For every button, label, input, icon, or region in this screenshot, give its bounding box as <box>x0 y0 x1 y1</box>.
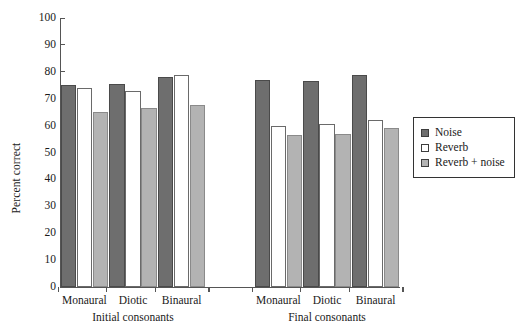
x-axis-tick <box>300 287 301 292</box>
y-axis-tick-label: 20 <box>14 227 56 239</box>
y-axis-tick-label: 40 <box>14 173 56 185</box>
legend-item-label: Noise <box>435 127 462 139</box>
y-axis-tick-label-text: 70 <box>16 93 56 105</box>
y-axis-tick-label-text: 20 <box>16 227 56 239</box>
bar-reverb-initial-consonants-diotic <box>125 91 141 287</box>
x-axis-category-label: Binaural <box>137 294 227 306</box>
y-axis-tick-label-text: 100 <box>16 12 56 24</box>
legend-item: Noise <box>421 125 505 140</box>
y-axis-tick-label-text: 40 <box>16 173 56 185</box>
legend-swatch-icon <box>421 159 429 167</box>
bar-reverbnoise-initial-consonants-monaural <box>93 112 109 287</box>
legend-item-label: Reverb <box>435 142 468 154</box>
bar-chart-figure: Percent correct 0102030405060708090100 M… <box>0 0 530 335</box>
bar-reverb-final-consonants-binaural <box>368 120 384 287</box>
bar-reverb-final-consonants-diotic <box>319 124 335 287</box>
x-axis-group-label: Final consonants <box>257 311 397 323</box>
bar-noise-initial-consonants-monaural <box>61 85 77 287</box>
y-axis-tick-label: 70 <box>14 93 56 105</box>
y-axis-tick-label: 80 <box>14 66 56 78</box>
x-axis-tick <box>349 287 350 292</box>
legend: NoiseReverbReverb + noise <box>413 117 515 178</box>
bar-reverbnoise-final-consonants-binaural <box>384 128 400 287</box>
x-axis-category-label: Binaural <box>331 294 421 306</box>
x-axis-tick <box>58 287 59 292</box>
y-axis-tick-label: 50 <box>14 147 56 159</box>
y-axis-tick-label-text: 90 <box>16 39 56 51</box>
bar-reverbnoise-initial-consonants-diotic <box>141 108 157 287</box>
x-axis-tick <box>106 287 107 292</box>
y-axis-tick-label: 100 <box>14 12 56 24</box>
bar-noise-final-consonants-diotic <box>303 81 319 287</box>
bar-reverb-initial-consonants-monaural <box>77 88 93 287</box>
x-axis-tick <box>155 287 156 292</box>
y-axis-tick-label: 0 <box>14 281 56 293</box>
bar-reverbnoise-initial-consonants-binaural <box>190 105 206 287</box>
y-axis-tick-label-text: 0 <box>16 281 56 293</box>
y-axis-tick-label: 30 <box>14 200 56 212</box>
bar-noise-initial-consonants-diotic <box>109 84 125 287</box>
y-axis-tick-label: 90 <box>14 39 56 51</box>
bar-noise-final-consonants-monaural <box>255 80 271 287</box>
legend-swatch-icon <box>421 129 429 137</box>
bar-reverbnoise-final-consonants-diotic <box>335 134 351 287</box>
y-axis-tick-label-text: 30 <box>16 200 56 212</box>
legend-item: Reverb <box>421 140 505 155</box>
legend-item-label: Reverb + noise <box>435 157 505 169</box>
x-axis-tick <box>208 287 209 292</box>
y-axis-tick-label-text: 80 <box>16 66 56 78</box>
x-axis-tick <box>402 287 403 292</box>
legend-item: Reverb + noise <box>421 155 505 170</box>
x-axis-group-label: Initial consonants <box>63 311 203 323</box>
y-axis-tick-label-text: 50 <box>16 147 56 159</box>
bar-reverb-initial-consonants-binaural <box>174 75 190 288</box>
plot-area <box>60 18 400 287</box>
x-axis-tick <box>252 287 253 292</box>
legend-swatch-icon <box>421 144 429 152</box>
y-axis-tick-label: 10 <box>14 254 56 266</box>
bar-reverb-final-consonants-monaural <box>271 126 287 287</box>
bar-reverbnoise-final-consonants-monaural <box>287 135 303 287</box>
bar-noise-initial-consonants-binaural <box>158 77 174 287</box>
y-axis-tick-label-text: 60 <box>16 120 56 132</box>
bar-noise-final-consonants-binaural <box>352 75 368 288</box>
y-axis-tick-label: 60 <box>14 120 56 132</box>
y-axis-tick-label-text: 10 <box>16 254 56 266</box>
